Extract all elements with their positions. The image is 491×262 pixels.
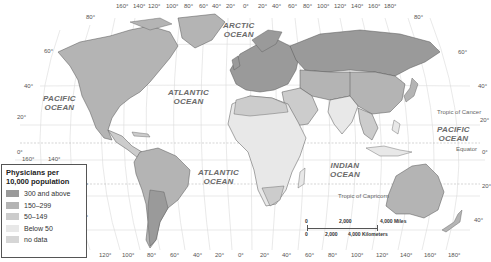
lat-label-40-left: 40° [24, 83, 33, 89]
ocean-word: OCEAN [330, 170, 360, 179]
canada-islands [130, 18, 172, 30]
philippines [392, 120, 400, 134]
scale-bar: 0 2,000 4,000 Miles 0 2,000 4,000 Kilome… [305, 218, 435, 238]
south-asia [328, 96, 358, 134]
ocean-name: ATLANTIC [198, 168, 239, 177]
ocean-label-pacific-east: PACIFICOCEAN [437, 125, 470, 143]
lat-label-80-left: 80° [86, 14, 95, 20]
scale-km-0: 0 [305, 231, 308, 237]
lat-label-20-right: 20° [480, 117, 489, 123]
greenland [178, 14, 225, 48]
north-america [58, 26, 178, 140]
legend-label: no data [24, 236, 47, 243]
scale-miles-0: 0 [305, 218, 308, 224]
russia [290, 30, 440, 76]
north-africa [234, 96, 288, 116]
ocean-name: INDIAN [330, 161, 360, 170]
lon-label: 120° [148, 3, 160, 9]
lon-label-pacific: 140° [48, 156, 60, 162]
lon-label: 100° [317, 3, 329, 9]
legend-item-300-above: 300 and above [6, 188, 82, 200]
ocean-word: OCEAN [437, 134, 470, 143]
legend-item-150-299: 150–299 [6, 200, 82, 212]
lon-label: 120° [334, 3, 346, 9]
tropic-of-cancer-label: Tropic of Cancer [437, 109, 481, 115]
scale-line [307, 228, 377, 229]
lon-label: 80° [184, 3, 193, 9]
ocean-name: PACIFIC [437, 125, 470, 134]
legend-title: Physicians per 10,000 population [6, 168, 82, 186]
lon-label: 80° [147, 252, 156, 258]
legend-item-below-50: Below 50 [6, 223, 82, 235]
australia [386, 164, 444, 218]
lon-label-pacific: 160° [22, 156, 34, 162]
lon-label: 40° [193, 252, 202, 258]
swatch [6, 190, 19, 197]
lat-label-60-left: 60° [44, 48, 53, 54]
ocean-name: ARCTIC [223, 21, 254, 30]
lat-label-20s-right: 20° [482, 183, 491, 189]
lon-label: 180° [384, 3, 396, 9]
china [350, 72, 405, 114]
ocean-label-indian: INDIANOCEAN [330, 161, 360, 179]
lon-label: 60° [288, 3, 297, 9]
legend-label: Below 50 [24, 225, 53, 232]
ocean-name: ATLANTIC [168, 88, 209, 97]
new-zealand [442, 210, 462, 232]
madagascar [298, 168, 305, 188]
lon-label: 20° [226, 3, 235, 9]
ocean-label-atlantic-south: ATLANTICOCEAN [198, 168, 239, 186]
ocean-word: OCEAN [168, 97, 209, 106]
legend-label: 150–299 [24, 202, 51, 209]
ocean-word: OCEAN [43, 103, 76, 112]
tropic-of-capricorn-label: Tropic of Capricorn [338, 193, 389, 199]
argentina [148, 190, 168, 246]
lon-label: 0° [243, 3, 249, 9]
lon-label: 120° [99, 252, 111, 258]
ocean-label-pacific-west: PACIFICOCEAN [43, 94, 76, 112]
lon-label: 0° [238, 252, 244, 258]
lon-label: 160° [116, 3, 128, 9]
lon-label: 40° [212, 3, 221, 9]
scale-km-2000: 2,000 [325, 231, 338, 237]
lon-label: 20° [215, 252, 224, 258]
swatch [6, 225, 19, 232]
legend-title-line2: 10,000 population [6, 177, 82, 186]
legend: Physicians per 10,000 population 300 and… [1, 164, 87, 258]
lon-label: 180° [448, 252, 460, 258]
lon-label: 160° [424, 252, 436, 258]
scale-miles-4000: 4,000 Miles [380, 218, 406, 224]
lon-label: 40° [272, 3, 281, 9]
scale-miles-2000: 2,000 [339, 218, 352, 224]
lon-label: 60° [170, 252, 179, 258]
ocean-label-atlantic-north: ATLANTICOCEAN [168, 88, 209, 106]
ocean-label-arctic: ARCTICOCEAN [223, 21, 254, 39]
lat-label-40s-right: 40° [474, 217, 483, 223]
swatch [6, 213, 19, 220]
lon-label: 60° [305, 252, 314, 258]
lon-label: 80° [328, 252, 337, 258]
lat-label-0-right: 0° [482, 149, 488, 155]
caribbean [132, 132, 150, 137]
lon-label: 40° [282, 252, 291, 258]
lon-label: 60° [199, 3, 208, 9]
legend-title-line1: Physicians per [6, 168, 82, 177]
scale-km-4000: 4,000 Kilometers [348, 231, 388, 237]
lon-label: 80° [303, 3, 312, 9]
ocean-word: OCEAN [198, 177, 239, 186]
legend-item-50-149: 50–149 [6, 211, 82, 223]
lon-label: 100° [351, 252, 363, 258]
lat-label-40-right: 40° [478, 83, 487, 89]
equator-label: Equator [456, 146, 477, 152]
lat-label-80-right: 80° [414, 14, 423, 20]
lat-label-0-left: 0° [17, 149, 23, 155]
lon-label: 140° [351, 3, 363, 9]
lon-label: 20° [258, 3, 267, 9]
legend-label: 300 and above [24, 190, 70, 197]
ocean-name: PACIFIC [43, 94, 76, 103]
legend-item-no-data: no data [6, 234, 82, 246]
lon-label: 120° [376, 252, 388, 258]
lon-label: 140° [400, 252, 412, 258]
lon-label: 160° [368, 3, 380, 9]
lon-label: 20° [260, 252, 269, 258]
